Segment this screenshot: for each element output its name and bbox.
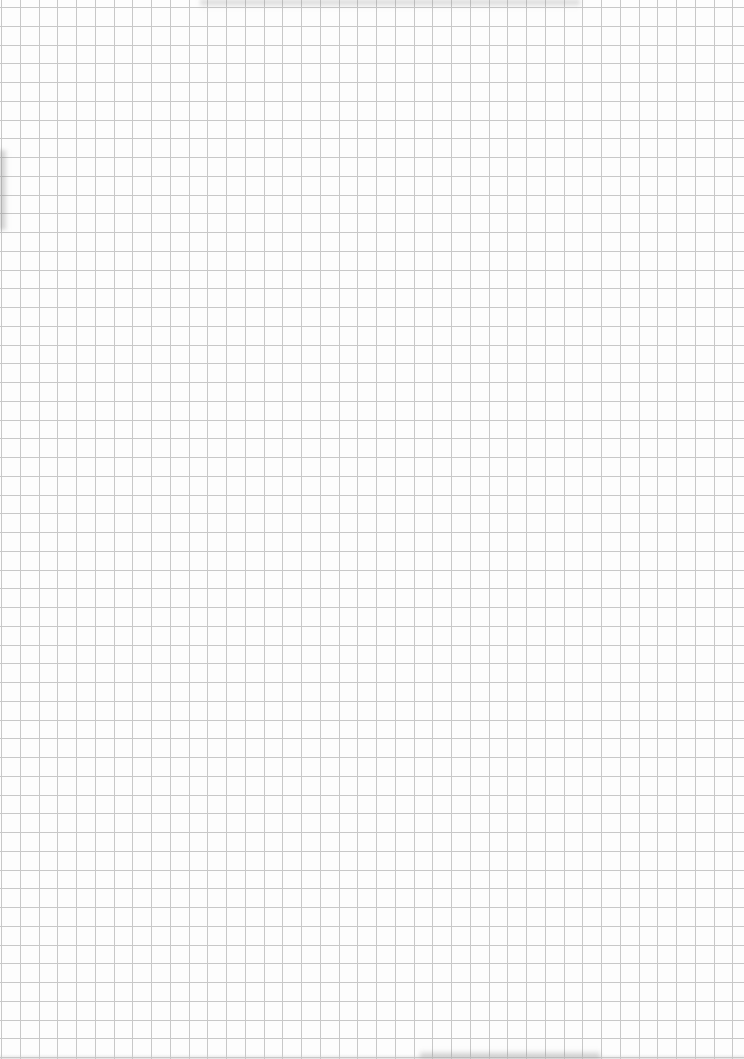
- grid-path: [0, 0, 744, 1059]
- graph-paper-sheet: [0, 0, 744, 1059]
- grid-lines: [0, 0, 744, 1059]
